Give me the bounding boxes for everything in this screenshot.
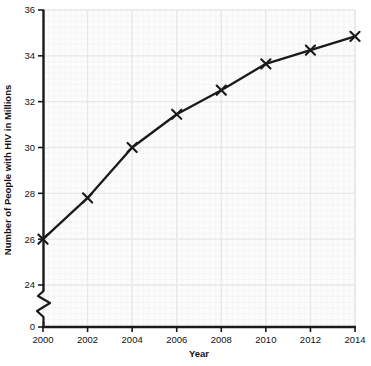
x-tick-label: 2006 — [166, 334, 187, 345]
y-tick-label: 26 — [24, 234, 35, 245]
x-axis-tick-labels: 20002002200420062008201020122014 — [32, 334, 365, 345]
x-tick-label: 2000 — [32, 334, 53, 345]
y-tick-label: 36 — [24, 4, 35, 15]
line-chart: 024262830323436 200020022004200620082010… — [0, 0, 371, 366]
y-tick-label: 24 — [24, 279, 35, 290]
x-axis-title: Year — [189, 348, 209, 359]
y-axis-tick-labels: 024262830323436 — [24, 4, 35, 332]
x-tick-label: 2002 — [77, 334, 98, 345]
x-tick-label: 2010 — [255, 334, 276, 345]
x-tick-label: 2012 — [300, 334, 321, 345]
x-tick-label: 2014 — [344, 334, 365, 345]
y-tick-label: 34 — [24, 50, 35, 61]
y-axis-title: Number of People with HIV in Millions — [2, 85, 13, 255]
y-tick-label: 0 — [30, 321, 35, 332]
y-tick-label: 30 — [24, 142, 35, 153]
y-tick-label: 32 — [24, 96, 35, 107]
y-tick-label: 28 — [24, 188, 35, 199]
x-tick-label: 2004 — [122, 334, 143, 345]
chart-container: 024262830323436 200020022004200620082010… — [0, 0, 371, 366]
x-tick-label: 2008 — [211, 334, 232, 345]
